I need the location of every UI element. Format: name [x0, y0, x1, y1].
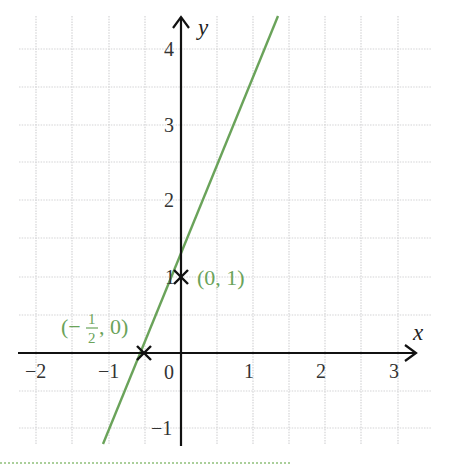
y-tick-label: −1 [151, 417, 172, 439]
point-label-neg-half-0: (− 1 2 , 0) [61, 311, 128, 346]
x-tick-label: −1 [98, 360, 119, 382]
point-label-0-1: (0, 1) [197, 265, 245, 290]
coordinate-plane: y x −2 −1 0 1 2 3 4 3 2 1 −1 (0, 1) (− 1… [0, 0, 452, 465]
x-axis [18, 345, 416, 361]
fraction-denominator: 2 [88, 330, 96, 346]
y-tick-label: 4 [164, 38, 174, 60]
x-tick-label: 3 [389, 360, 399, 382]
svg-text:, 0): , 0) [99, 314, 128, 339]
x-tick-label: 1 [244, 360, 254, 382]
x-axis-label: x [412, 320, 424, 345]
origin-label: 0 [164, 361, 174, 383]
svg-text:(−: (− [61, 314, 81, 339]
y-tick-label: 1 [165, 266, 175, 288]
fraction-numerator: 1 [88, 311, 96, 327]
y-axis-label: y [196, 15, 209, 40]
x-tick-label: 2 [316, 360, 326, 382]
y-tick-label: 2 [164, 189, 174, 211]
grid [19, 16, 432, 445]
y-axis [173, 17, 189, 446]
y-tick-label: 3 [164, 114, 174, 136]
x-tick-label: −2 [25, 360, 46, 382]
